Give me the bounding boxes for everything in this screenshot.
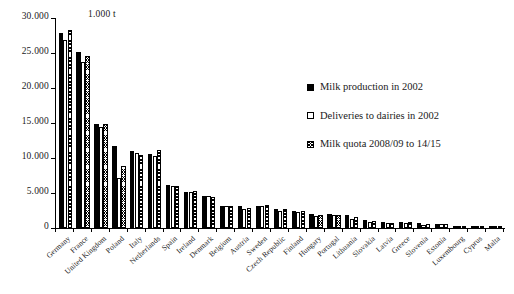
bar-group: [489, 18, 502, 228]
bar: [354, 217, 358, 228]
x-axis-tick: [55, 228, 56, 232]
legend-swatch-icon: [307, 112, 314, 119]
bar-group: [184, 18, 197, 228]
x-axis-tick: [73, 228, 74, 232]
x-axis-tick: [395, 228, 396, 232]
x-axis-tick: [503, 228, 504, 232]
legend-item: Milk production in 2002: [307, 82, 441, 93]
bar: [157, 150, 161, 228]
legend-item: Milk quota 2008/09 to 14/15: [307, 139, 441, 150]
bar: [265, 205, 269, 228]
bar: [462, 226, 466, 228]
bar: [193, 191, 197, 228]
bar: [444, 224, 448, 228]
x-axis-tick: [270, 228, 271, 232]
chart-legend: Milk production in 2002Deliveries to dai…: [307, 82, 441, 168]
x-axis-tick: [252, 228, 253, 232]
x-axis-category-label: Cyprus: [461, 234, 484, 256]
bar-group: [274, 18, 287, 228]
bar-group: [202, 18, 215, 228]
x-axis-tick: [431, 228, 432, 232]
bar: [247, 208, 251, 228]
bar-group: [166, 18, 179, 228]
y-tick-mark: [51, 53, 55, 54]
y-tick-mark: [51, 123, 55, 124]
bar: [390, 223, 394, 228]
y-tick-mark: [51, 193, 55, 194]
bar: [408, 222, 412, 228]
bar: [103, 124, 107, 228]
x-axis-tick: [378, 228, 379, 232]
bar: [121, 166, 125, 228]
x-axis-tick: [485, 228, 486, 232]
x-axis-tick: [91, 228, 92, 232]
bar-group: [220, 18, 233, 228]
bar: [372, 221, 376, 228]
x-axis-tick: [198, 228, 199, 232]
bar: [211, 197, 215, 229]
bar-group: [238, 18, 251, 228]
x-axis-tick: [467, 228, 468, 232]
x-axis-category-label: Poland: [104, 234, 126, 255]
x-axis-tick: [324, 228, 325, 232]
y-tick-label: 10.000: [22, 151, 49, 161]
y-tick-label: 0: [44, 221, 49, 231]
bar: [85, 56, 89, 228]
x-axis-category-label: Malta: [482, 234, 502, 253]
bar-group: [59, 18, 72, 228]
legend-swatch-icon: [307, 141, 314, 148]
y-tick-mark: [51, 158, 55, 159]
legend-swatch-icon: [307, 84, 314, 91]
bar-group: [453, 18, 466, 228]
x-axis-tick: [216, 228, 217, 232]
y-tick-label: 20.000: [22, 81, 49, 91]
bar: [318, 215, 322, 228]
x-axis-tick: [306, 228, 307, 232]
bar: [175, 186, 179, 228]
bar-group: [94, 18, 107, 228]
bar: [480, 226, 484, 228]
bar-group: [130, 18, 143, 228]
bar: [498, 226, 502, 228]
bar: [336, 215, 340, 228]
x-axis-tick: [145, 228, 146, 232]
x-axis-tick: [288, 228, 289, 232]
bar: [229, 206, 233, 228]
x-axis-line: [55, 228, 505, 229]
legend-label: Milk production in 2002: [320, 82, 423, 93]
x-axis-tick: [109, 228, 110, 232]
y-tick-mark: [51, 88, 55, 89]
y-tick-mark: [51, 18, 55, 19]
x-axis-tick: [360, 228, 361, 232]
legend-label: Milk quota 2008/09 to 14/15: [320, 139, 441, 150]
milk-production-bar-chart: 1.000 t 05.00010.00015.00020.00025.00030…: [0, 0, 514, 294]
bar-group: [112, 18, 125, 228]
x-axis-tick: [180, 228, 181, 232]
x-axis-tick: [342, 228, 343, 232]
bar: [139, 155, 143, 228]
bar-group: [292, 18, 305, 228]
x-axis-tick: [413, 228, 414, 232]
x-axis-tick: [234, 228, 235, 232]
bar: [426, 224, 430, 228]
x-axis-tick: [127, 228, 128, 232]
bar-group: [148, 18, 161, 228]
legend-label: Deliveries to dairies in 2002: [320, 111, 439, 122]
y-tick-label: 15.000: [22, 116, 49, 126]
bar: [301, 211, 305, 228]
bar-group: [256, 18, 269, 228]
bar: [68, 30, 72, 228]
y-tick-label: 30.000: [22, 11, 49, 21]
bar: [283, 209, 287, 228]
bar-group: [76, 18, 89, 228]
y-tick-label: 5.000: [27, 186, 49, 196]
bar-group: [471, 18, 484, 228]
y-tick-label: 25.000: [22, 46, 49, 56]
legend-item: Deliveries to dairies in 2002: [307, 111, 441, 122]
x-axis-tick: [163, 228, 164, 232]
x-axis-tick: [449, 228, 450, 232]
